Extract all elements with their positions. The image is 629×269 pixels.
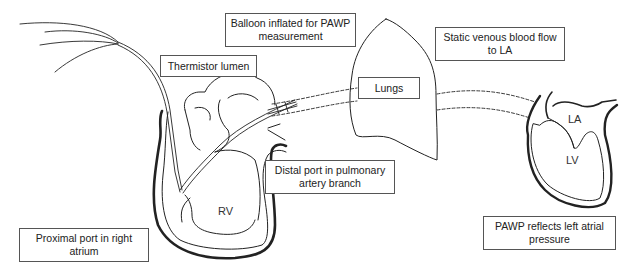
left-heart-outline [527, 92, 617, 207]
pawp-reflects-label: PAWP reflects left atrial pressure [483, 216, 616, 250]
la-label: LA [568, 113, 582, 125]
balloon-label: Balloon inflated for PAWP measurement [225, 13, 356, 47]
static-flow-label: Static venous blood flow to LA [435, 27, 565, 61]
rv-label: RV [218, 205, 234, 217]
lungs-label: Lungs [358, 77, 420, 99]
distal-port-label: Distal port in pulmonary artery branch [265, 160, 395, 194]
pulmonary-veins-dashed [437, 91, 535, 118]
proximal-port-label: Proximal port in right atrium [19, 228, 149, 262]
lv-label: LV [566, 154, 579, 166]
thermistor-label: Thermistor lumen [160, 55, 257, 77]
catheter-tails [20, 23, 118, 72]
